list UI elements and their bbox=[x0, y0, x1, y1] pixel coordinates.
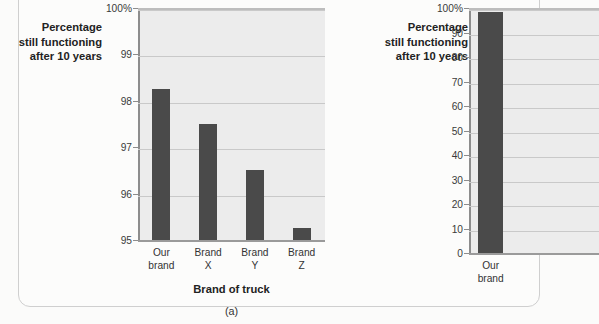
x-axis-category-label-line: Z bbox=[278, 260, 325, 273]
x-axis-title-a: Brand of truck bbox=[138, 283, 325, 295]
plot-area-b bbox=[469, 8, 599, 253]
y-axis-tick-mark bbox=[464, 204, 469, 205]
y-axis-tick-label: 80 bbox=[425, 52, 463, 63]
y-axis-line-b bbox=[469, 10, 471, 253]
y-axis-tick-label: 96 bbox=[94, 188, 132, 199]
y-axis-line-a bbox=[138, 10, 140, 240]
y-axis-tick-mark bbox=[133, 194, 138, 195]
x-axis-category-label: Ourbrand bbox=[138, 247, 185, 272]
y-axis-title-line-3: after 10 years bbox=[0, 49, 102, 64]
y-axis-tick-label: 30 bbox=[425, 174, 463, 185]
y-axis-tick-label: 99 bbox=[94, 49, 132, 60]
x-axis-category-label-line: Y bbox=[232, 260, 279, 273]
y-axis-tick-mark bbox=[464, 253, 469, 254]
y-axis-tick-mark bbox=[133, 240, 138, 241]
gridline bbox=[138, 56, 325, 57]
bar bbox=[199, 124, 217, 240]
y-axis-tick-mark bbox=[133, 101, 138, 102]
y-axis-tick-label: 100% bbox=[94, 3, 132, 14]
x-axis-baseline-b bbox=[469, 253, 599, 255]
y-axis-tick-mark bbox=[464, 106, 469, 107]
x-axis-baseline-a bbox=[138, 240, 325, 242]
y-axis-tick-mark bbox=[464, 229, 469, 230]
x-axis-category-label-line: Brand bbox=[185, 247, 232, 260]
x-axis-category-label-line: Our bbox=[469, 260, 512, 273]
bar bbox=[478, 12, 503, 253]
y-axis-title-a: Percentage still functioning after 10 ye… bbox=[0, 20, 102, 64]
bar bbox=[293, 228, 311, 240]
y-axis-tick-label: 10 bbox=[425, 223, 463, 234]
y-axis-tick-mark bbox=[133, 147, 138, 148]
y-axis-tick-mark bbox=[464, 33, 469, 34]
x-axis-category-label-line: brand bbox=[469, 273, 512, 286]
y-axis-tick-mark bbox=[133, 8, 138, 9]
y-axis-tick-label: 60 bbox=[425, 101, 463, 112]
bar bbox=[246, 170, 264, 240]
y-axis-tick-mark bbox=[464, 131, 469, 132]
x-axis-category-label: BrandX bbox=[185, 247, 232, 272]
chart-panel-a: Percentage still functioning after 10 ye… bbox=[0, 0, 340, 324]
y-axis-tick-mark bbox=[464, 57, 469, 58]
y-axis-tick-mark bbox=[133, 54, 138, 55]
y-axis-tick-mark bbox=[464, 8, 469, 9]
bar bbox=[152, 89, 170, 240]
y-axis-tick-label: 95 bbox=[94, 235, 132, 246]
x-axis-category-label: Ourbrand bbox=[469, 260, 512, 285]
x-axis-category-label-line: Brand bbox=[232, 247, 279, 260]
panel-caption-a: (a) bbox=[138, 305, 325, 317]
y-axis-tick-label: 97 bbox=[94, 142, 132, 153]
y-axis-tick-label: 90 bbox=[425, 27, 463, 38]
gridline bbox=[138, 10, 325, 11]
x-axis-category-label-line: Brand bbox=[278, 247, 325, 260]
y-axis-tick-label: 40 bbox=[425, 150, 463, 161]
y-axis-tick-label: 98 bbox=[94, 95, 132, 106]
plot-area-a bbox=[138, 8, 325, 240]
y-axis-tick-mark bbox=[464, 82, 469, 83]
x-axis-category-label-line: brand bbox=[138, 260, 185, 273]
x-axis-category-label: BrandY bbox=[232, 247, 279, 272]
y-axis-tick-mark bbox=[464, 180, 469, 181]
y-axis-tick-label: 50 bbox=[425, 125, 463, 136]
y-axis-tick-label: 0 bbox=[425, 248, 463, 259]
x-axis-category-label: BrandZ bbox=[278, 247, 325, 272]
x-axis-category-label-line: Our bbox=[138, 247, 185, 260]
y-axis-tick-label: 70 bbox=[425, 76, 463, 87]
y-axis-tick-label: 20 bbox=[425, 199, 463, 210]
x-axis-category-label-line: X bbox=[185, 260, 232, 273]
y-axis-tick-label: 100% bbox=[425, 3, 463, 14]
y-axis-title-line-2: still functioning bbox=[0, 35, 102, 50]
gridline bbox=[469, 10, 599, 11]
y-axis-tick-mark bbox=[464, 155, 469, 156]
chart-panel-b: Percentage still functioning after 10 ye… bbox=[360, 0, 560, 324]
y-axis-title-line-1: Percentage bbox=[0, 20, 102, 35]
